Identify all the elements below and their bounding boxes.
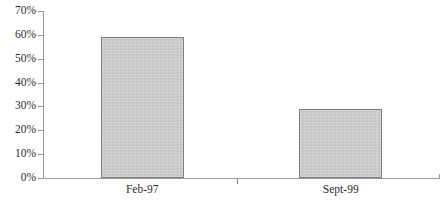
- y-axis-tick-label-text: 20%: [0, 124, 36, 136]
- y-axis-tick-label: 20%: [0, 124, 36, 136]
- y-axis-tick: [38, 83, 43, 84]
- y-axis-tick-label-text: 50%: [0, 53, 36, 65]
- y-axis-tick-label-text: 30%: [0, 100, 36, 112]
- x-axis-category-label: Feb-97: [82, 183, 202, 196]
- bar: [101, 37, 184, 178]
- x-axis-end-tick: [439, 174, 440, 179]
- y-axis-tick-label-text: 40%: [0, 77, 36, 89]
- y-axis-line: [43, 11, 44, 179]
- y-axis-tick-label-text: 10%: [0, 148, 36, 160]
- y-axis-tick: [38, 11, 43, 12]
- y-axis-tick-label: 0%: [0, 172, 36, 184]
- y-axis-tick-label: 10%: [0, 148, 36, 160]
- y-axis-tick: [38, 106, 43, 107]
- y-axis-tick-label-text: 70%: [0, 5, 36, 17]
- x-axis-line: [43, 178, 440, 179]
- y-axis-tick-label-text: 0%: [0, 172, 36, 184]
- y-axis-tick-label: 30%: [0, 100, 36, 112]
- y-axis-tick-label: 70%: [0, 5, 36, 17]
- bar: [299, 109, 382, 178]
- y-axis-tick-label: 60%: [0, 29, 36, 41]
- y-axis-tick: [38, 130, 43, 131]
- x-axis-category-label: Sept-99: [281, 183, 401, 196]
- y-axis-tick: [38, 59, 43, 60]
- y-axis-tick-label-text: 60%: [0, 29, 36, 41]
- y-axis-tick: [38, 154, 43, 155]
- y-axis-tick-label: 50%: [0, 53, 36, 65]
- bar-chart: 0%10%20%30%40%50%60%70% Feb-97Sept-99: [0, 0, 445, 203]
- y-axis-tick: [38, 35, 43, 36]
- category-separator-tick: [237, 179, 238, 184]
- y-axis-tick-label: 40%: [0, 77, 36, 89]
